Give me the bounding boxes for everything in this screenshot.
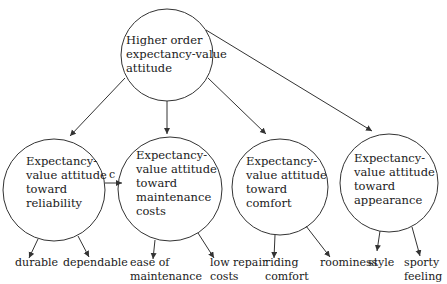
leaf-sporty-feeling: sporty feeling [404, 256, 442, 284]
leaf-style: style [368, 256, 394, 270]
leaf-durable: durable [15, 256, 58, 270]
edge-leaf-dependable [78, 236, 89, 257]
edge-leaf-riding [274, 235, 275, 258]
appearance-node-label: Expectancy- value attitude toward appear… [354, 151, 435, 207]
leaf-riding-comfort: riding comfort [265, 256, 309, 284]
edge-root-comfort [208, 78, 266, 134]
leaf-ease-of-maintenance: ease of maintenance [130, 256, 202, 284]
comfort-node-label: Expectancy- value attitude toward comfor… [246, 154, 327, 210]
edge-label-c: c [109, 168, 115, 181]
maintenance-node-label: Expectancy- value attitude toward mainte… [136, 148, 217, 218]
attitude-hierarchy-diagram: Higher order expectancy-value attitude E… [0, 0, 447, 284]
reliability-node-label: Expectancy- value attitude toward reliab… [26, 154, 107, 210]
edge-leaf-lowrepair [198, 233, 214, 258]
edge-leaf-style [377, 231, 380, 251]
leaf-dependable: dependable [63, 256, 128, 270]
edge-leaf-roominess [306, 226, 330, 257]
edge-root-reliability [70, 78, 125, 136]
leaf-low-repair-costs: low repair costs [210, 256, 267, 284]
edge-leaf-sporty [412, 227, 420, 256]
edge-root-appearance [206, 30, 372, 131]
root-node-label: Higher order expectancy-value attitude [126, 33, 227, 75]
